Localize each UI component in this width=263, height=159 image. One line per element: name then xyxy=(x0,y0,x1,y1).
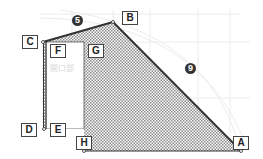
label-b: B xyxy=(122,11,138,25)
label-f: F xyxy=(50,44,66,58)
label-g: G xyxy=(88,44,104,58)
vertex-d xyxy=(43,128,46,131)
opening-label: 開口部 xyxy=(50,62,74,73)
label-c: C xyxy=(22,35,38,49)
edge-marker-5: 5 xyxy=(72,15,83,26)
label-e: E xyxy=(50,123,66,137)
vertex-c xyxy=(42,41,45,44)
label-d: D xyxy=(21,123,37,137)
vertex-b xyxy=(112,21,115,24)
edge-marker-9: 9 xyxy=(185,63,196,74)
label-h: H xyxy=(76,136,92,150)
label-a: A xyxy=(233,136,249,150)
